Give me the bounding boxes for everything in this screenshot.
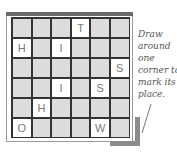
pointer-line-icon: [0, 0, 177, 153]
